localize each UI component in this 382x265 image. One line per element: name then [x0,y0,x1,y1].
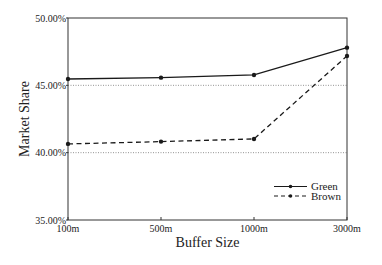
data-point [159,139,163,143]
x-tick-label: 100m [57,223,80,234]
y-tick-label: 40.00% [35,147,66,158]
data-point [252,137,256,141]
series-line [68,48,347,79]
data-point [345,45,349,49]
legend: GreenBrown [274,180,341,202]
data-point [345,54,349,58]
x-tick-label: 1000m [240,223,268,234]
plot-frame [68,18,347,220]
series [66,45,349,146]
y-axis-title: Market Share [17,81,32,157]
gridlines [68,85,347,152]
x-axis-title: Buffer Size [176,235,240,250]
legend-marker [289,185,293,189]
legend-item-brown: Brown [274,190,341,202]
series-line [68,56,347,144]
x-tick-label: 3000m [333,223,361,234]
line-chart: 35.00%40.00%45.00%50.00% 100m500m1000m30… [0,0,382,265]
series-green [66,45,349,81]
legend-marker [289,194,293,198]
data-point [252,73,256,77]
data-point [66,142,70,146]
y-tick-label: 50.00% [35,13,66,24]
data-point [159,75,163,79]
series-brown [66,54,349,146]
x-tick-label: 500m [150,223,173,234]
y-axis: 35.00%40.00%45.00%50.00% [35,13,68,226]
data-point [66,77,70,81]
legend-label: Brown [311,190,341,202]
y-tick-label: 45.00% [35,80,66,91]
